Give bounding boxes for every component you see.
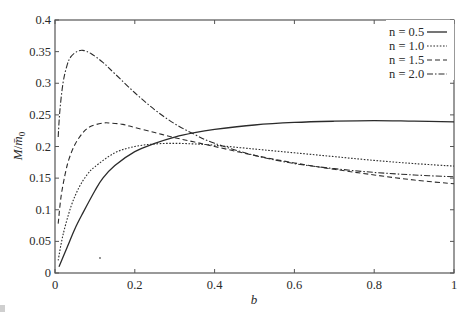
y-tick-label: 0.05	[29, 234, 51, 248]
data-series	[58, 50, 454, 266]
x-tick-label: 0.6	[287, 278, 303, 292]
x-tick-label: 0.2	[127, 278, 143, 292]
legend-label: n = 2.0	[389, 67, 424, 81]
legend: n = 0.5n = 1.0n = 1.5n = 2.0	[386, 20, 454, 81]
y-label-den: m̄	[10, 136, 25, 145]
y-tick-label: 0.3	[35, 76, 51, 90]
corner-artifact	[0, 305, 5, 312]
x-tick-label: 0	[52, 278, 58, 292]
legend-label: n = 1.0	[389, 39, 424, 53]
line-chart: 00.20.40.60.81 00.050.10.150.20.250.30.3…	[0, 0, 468, 316]
x-tick-label: 0.8	[366, 278, 382, 292]
series-line-1-5	[58, 123, 454, 224]
y-tick-label: 0.2	[35, 140, 51, 154]
series-line-1-0	[58, 143, 454, 260]
y-tick-label: 0.4	[35, 13, 51, 27]
x-axis-label: b	[251, 292, 258, 307]
x-tick-label: 1	[451, 278, 457, 292]
y-tick-label: 0.15	[29, 171, 51, 185]
series-line-0-5	[59, 121, 454, 267]
y-tick-label: 0	[45, 266, 51, 280]
y-axis-label: M/m̄0	[10, 131, 27, 161]
y-tick-label: 0.1	[35, 203, 51, 217]
x-tick-label: 0.4	[207, 278, 223, 292]
y-label-sub: 0	[17, 131, 27, 136]
legend-label: n = 0.5	[389, 25, 424, 39]
y-tick-label: 0.25	[29, 108, 51, 122]
speck-mark	[99, 257, 101, 259]
y-tick-label: 0.35	[29, 45, 51, 59]
legend-label: n = 1.5	[389, 53, 424, 67]
